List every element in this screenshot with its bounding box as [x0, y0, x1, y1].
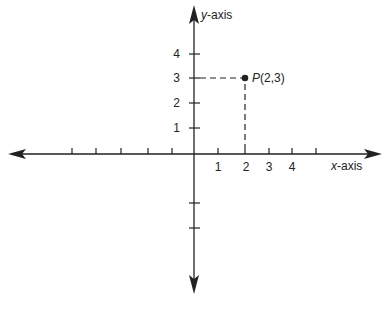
- coordinate-plane: 1 2 3 4 4 3 2 1 y-axis x-axis P(2,3): [0, 0, 384, 311]
- x-tick-label-2: 2: [243, 160, 250, 174]
- x-axis-label-suffix: -axis: [337, 159, 362, 173]
- y-axis-label-suffix: -axis: [207, 8, 232, 22]
- x-tick-label-4: 4: [289, 160, 296, 174]
- y-tick-label-3: 3: [173, 71, 180, 85]
- y-tick-label-1: 1: [173, 121, 180, 135]
- x-axis-label: x-axis: [330, 159, 362, 173]
- point-p-coords: (2,3): [260, 71, 285, 85]
- x-tick-label-3: 3: [266, 160, 273, 174]
- x-tick-label-1: 1: [215, 160, 222, 174]
- point-p-marker: [242, 75, 249, 82]
- point-p-name: P: [252, 71, 260, 85]
- point-p-label: P(2,3): [252, 71, 285, 85]
- y-tick-label-2: 2: [173, 96, 180, 110]
- y-tick-label-4: 4: [173, 47, 180, 61]
- y-axis-label: y-axis: [200, 8, 232, 22]
